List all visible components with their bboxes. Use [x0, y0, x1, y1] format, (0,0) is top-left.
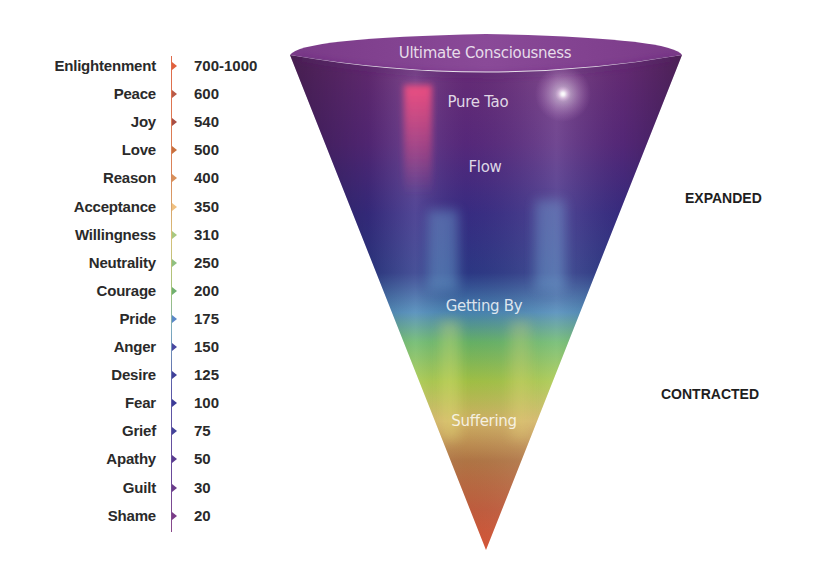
cone-graphic: [0, 0, 832, 572]
cone-level-label: Ultimate Consciousness: [399, 44, 572, 62]
cone-level-label: Getting By: [446, 297, 523, 315]
cone-level-label: Pure Tao: [448, 93, 509, 111]
contracted-label: CONTRACTED: [661, 386, 759, 402]
consciousness-cone: Ultimate ConsciousnessPure TaoFlowGettin…: [0, 0, 832, 572]
cone-level-label: Flow: [468, 158, 501, 176]
cone-level-label: Suffering: [451, 412, 516, 430]
expanded-label: EXPANDED: [685, 190, 762, 206]
